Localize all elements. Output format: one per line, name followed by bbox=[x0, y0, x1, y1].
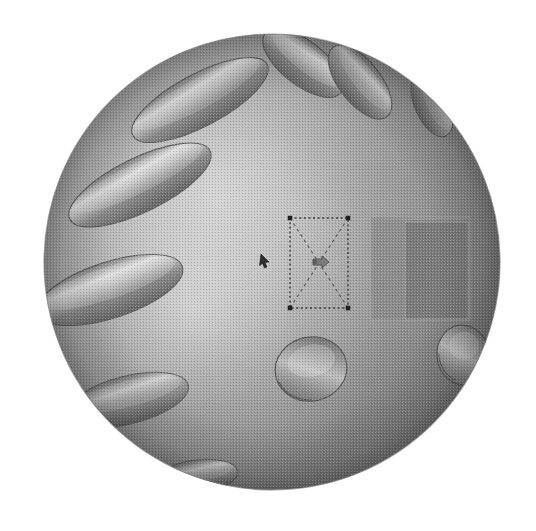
selection-handle-top-left[interactable] bbox=[288, 216, 293, 221]
scene-canvas[interactable] bbox=[0, 0, 536, 531]
selection-handle-top-right[interactable] bbox=[346, 216, 351, 221]
selection-handle-bottom-left[interactable] bbox=[288, 306, 293, 311]
sphere-rim-shading bbox=[44, 34, 500, 490]
selection-handle-bottom-right[interactable] bbox=[346, 306, 351, 311]
cad-viewport[interactable]: 3D CAD Viewport perforated-sphere select… bbox=[0, 0, 536, 531]
